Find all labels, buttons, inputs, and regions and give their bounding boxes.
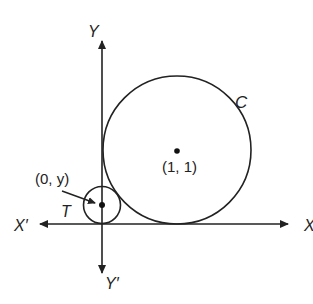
y-axis-positive-label: Y (88, 23, 100, 40)
circle-c-center-dot (174, 148, 180, 154)
circle-c-center-label: (1, 1) (162, 158, 197, 175)
x-axis-positive-label: X (303, 217, 313, 234)
diagram-canvas: Y Y′ X′ X C (1, 1) T (0, y) (0, 0, 313, 304)
x-axis-negative-label: X′ (13, 217, 29, 234)
y-axis-negative-label: Y′ (105, 275, 120, 292)
circle-c-label: C (235, 93, 248, 112)
pointer-arrow (62, 191, 95, 203)
diagram-svg: Y Y′ X′ X C (1, 1) T (0, y) (0, 0, 313, 304)
circle-t-label: T (61, 203, 72, 220)
circle-t-center-dot (99, 202, 105, 208)
circle-t-center-label: (0, y) (35, 170, 69, 187)
